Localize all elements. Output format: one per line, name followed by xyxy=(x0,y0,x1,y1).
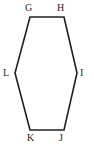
hexagon-outline xyxy=(15,17,77,130)
vertex-label-k: K xyxy=(27,133,34,143)
vertex-label-j: J xyxy=(59,133,63,143)
vertex-label-i: I xyxy=(80,68,83,78)
vertex-label-h: H xyxy=(57,3,64,13)
hexagon-figure: G H I J K L xyxy=(0,0,94,148)
vertex-label-g: G xyxy=(25,3,32,13)
vertex-label-l: L xyxy=(3,68,9,78)
